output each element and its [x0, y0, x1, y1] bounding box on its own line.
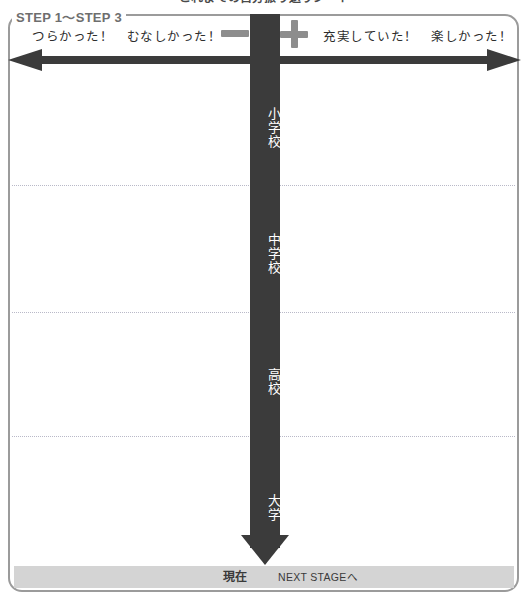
- valence-axis-arrow: [8, 49, 521, 71]
- footer-next-stage-label: NEXT STAGEへ: [278, 566, 357, 588]
- arrow-right-icon: [487, 49, 521, 71]
- valence-axis-labels: つらかった！ むなしかった！ 充実していた！ 楽しかった！: [10, 26, 519, 48]
- positive-axis-label: 充実していた！ 楽しかった！: [323, 26, 512, 48]
- minus-icon: [221, 30, 249, 37]
- plus-icon: [280, 20, 308, 48]
- timeline-stage-elementary: 小学校: [250, 98, 280, 158]
- footer-current-label: 現在: [223, 566, 247, 588]
- timeline-stage-junior-high: 中学校: [250, 224, 280, 284]
- arrow-down-icon: [241, 535, 289, 565]
- timeline-stage-high-school: 高校: [250, 352, 280, 412]
- step-legend-container: STEP 1〜STEP 3: [12, 8, 126, 24]
- negative-axis-label: つらかった！ むなしかった！: [32, 26, 221, 48]
- worksheet-title: これまでの自分振り返りシート: [0, 0, 529, 4]
- footer-bar: 現在 NEXT STAGEへ: [14, 566, 514, 588]
- timeline-stage-university: 大学: [250, 478, 280, 538]
- step-range-legend: STEP 1〜STEP 3: [16, 10, 122, 25]
- arrow-left-icon: [8, 49, 42, 71]
